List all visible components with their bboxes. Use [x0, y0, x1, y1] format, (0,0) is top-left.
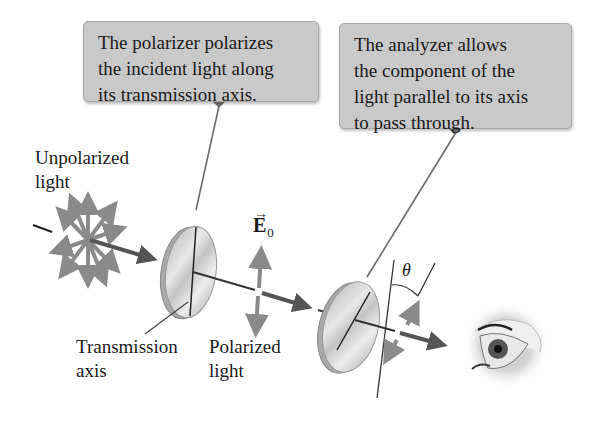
callout-line: light parallel to its axis	[354, 84, 561, 110]
beam-to-eye-arrow	[400, 333, 440, 344]
field-subscript: 0	[267, 225, 274, 240]
label-line: light	[35, 170, 129, 194]
analyzer-disk	[309, 276, 389, 379]
label-line: Unpolarized	[35, 146, 129, 170]
unpolarized-light-star-icon	[56, 199, 120, 281]
label-line: Polarized	[209, 335, 281, 359]
callout-line: to pass through.	[354, 110, 561, 136]
callout-line: its transmission axis.	[98, 82, 308, 108]
theta-angle-arc	[392, 285, 418, 296]
electric-field-label: →E0	[253, 213, 274, 240]
callout-line: the component of the	[354, 58, 561, 84]
callout-line: the incident light along	[98, 56, 308, 82]
analyzer-callout: The analyzer allows the component of the…	[339, 23, 572, 129]
label-line: Transmission	[76, 335, 178, 359]
theta-label: θ	[402, 258, 411, 282]
polarizer-callout: The polarizer polarizes the incident lig…	[83, 21, 319, 102]
beam-to-analyzer-arrow	[262, 293, 305, 306]
polarized-field-double-arrow-icon	[256, 253, 261, 330]
vector-arrow-mark: →	[254, 202, 268, 226]
analyzer-axis-extension-line	[418, 263, 435, 296]
polarized-light-label: Polarized light	[209, 335, 281, 383]
incoming-beam-segment	[33, 225, 52, 232]
label-line: axis	[76, 359, 178, 383]
eye-icon	[462, 301, 550, 389]
label-line: light	[209, 359, 281, 383]
polarization-diagram: The polarizer polarizes the incident lig…	[0, 0, 598, 430]
polarizer-disk	[155, 223, 222, 322]
callout-line: The analyzer allows	[354, 32, 561, 58]
callout-line: The polarizer polarizes	[98, 30, 308, 56]
transmission-axis-label: Transmission axis	[76, 335, 178, 383]
unpolarized-light-label: Unpolarized light	[35, 146, 129, 194]
callout-pointer-analyzer	[367, 128, 462, 277]
callout-pointer-polarizer	[196, 101, 226, 210]
